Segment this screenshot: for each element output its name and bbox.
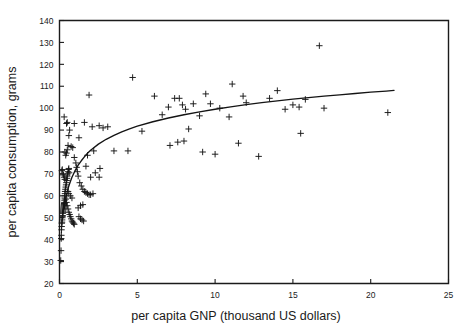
x-tick-label: 20 <box>366 290 376 300</box>
plot-frame <box>60 21 449 284</box>
data-point <box>71 120 77 126</box>
data-point <box>266 95 272 101</box>
data-point <box>81 119 87 125</box>
x-tick-label: 10 <box>210 290 220 300</box>
x-tick-label: 5 <box>135 290 140 300</box>
data-point <box>87 174 93 180</box>
x-tick-label: 15 <box>288 290 298 300</box>
y-tick-label: 120 <box>39 60 53 70</box>
data-point <box>181 138 187 144</box>
y-axis-tick-labels: 2030405060708090100110120130140 <box>39 16 53 289</box>
data-point <box>179 102 185 108</box>
data-point <box>196 113 202 119</box>
data-point <box>71 154 77 160</box>
data-point <box>61 114 67 120</box>
data-point <box>91 148 97 154</box>
y-tick-label: 60 <box>44 191 54 201</box>
data-point <box>96 174 102 180</box>
x-axis-title: per capita GNP (thousand US dollars) <box>131 309 341 323</box>
data-point <box>274 87 280 93</box>
data-point <box>199 149 205 155</box>
data-point <box>75 173 81 179</box>
data-point <box>176 95 182 101</box>
data-point <box>139 128 145 134</box>
data-point <box>190 101 196 107</box>
data-point <box>86 92 92 98</box>
scatter-plot-figure: 0510152025 20304050607080901001101201301… <box>0 0 472 329</box>
y-tick-label: 70 <box>44 169 54 179</box>
data-point <box>66 127 72 133</box>
data-point <box>175 139 181 145</box>
data-point <box>151 93 157 99</box>
data-point <box>83 163 89 169</box>
data-point <box>185 126 191 132</box>
data-point <box>66 132 72 138</box>
y-tick-label: 80 <box>44 147 54 157</box>
x-axis-tick-labels: 0510152025 <box>57 290 453 300</box>
data-point <box>385 109 391 115</box>
data-point <box>282 106 288 112</box>
data-point <box>68 143 74 149</box>
data-point <box>316 43 322 49</box>
y-tick-label: 30 <box>44 257 54 267</box>
data-point <box>182 106 188 112</box>
scatter-markers <box>58 43 391 264</box>
y-tick-label: 20 <box>44 279 54 289</box>
data-point <box>97 165 103 171</box>
x-axis-ticks <box>60 21 449 284</box>
data-point <box>240 93 246 99</box>
data-point <box>165 104 171 110</box>
data-point <box>78 183 84 189</box>
data-point <box>321 105 327 111</box>
data-point <box>92 170 98 176</box>
y-tick-label: 50 <box>44 213 54 223</box>
y-tick-label: 100 <box>39 103 53 113</box>
y-tick-label: 140 <box>39 16 53 26</box>
data-point <box>229 81 235 87</box>
data-point <box>105 124 111 130</box>
plot-canvas: 0510152025 20304050607080901001101201301… <box>0 0 472 329</box>
data-point <box>290 102 296 108</box>
data-point <box>77 179 83 185</box>
data-point <box>203 91 209 97</box>
data-point <box>129 74 135 80</box>
data-point <box>58 257 64 263</box>
axes-frame <box>60 21 449 284</box>
data-point <box>111 148 117 154</box>
data-point <box>63 120 69 126</box>
data-point <box>212 151 218 157</box>
data-point <box>167 142 173 148</box>
y-tick-label: 90 <box>44 125 54 135</box>
data-point <box>79 217 85 223</box>
x-tick-label: 0 <box>57 290 62 300</box>
y-tick-label: 110 <box>40 81 54 91</box>
data-point <box>255 153 261 159</box>
y-tick-label: 40 <box>44 235 54 245</box>
data-point <box>89 124 95 130</box>
data-point <box>125 148 131 154</box>
data-point <box>235 140 241 146</box>
y-axis-title: per capita consumption, grams <box>5 67 19 238</box>
data-point <box>207 101 213 107</box>
data-point <box>159 112 165 118</box>
x-tick-label: 25 <box>444 290 454 300</box>
data-point <box>226 114 232 120</box>
data-point <box>297 130 303 136</box>
y-tick-label: 130 <box>39 38 53 48</box>
data-point <box>64 119 70 125</box>
data-point <box>76 135 82 141</box>
data-point <box>296 104 302 110</box>
